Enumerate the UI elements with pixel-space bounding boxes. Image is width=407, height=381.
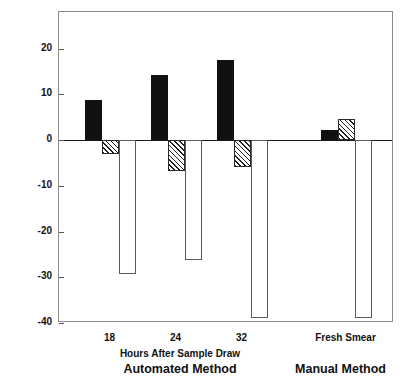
bar-18-open [119,140,136,274]
y-tick-mark [59,49,64,50]
bar-fresh-smear-solid [321,130,338,141]
y-tick-label: -10 [26,180,52,190]
y-tick-label: -30 [26,271,52,281]
y-tick-label: 20 [26,43,52,53]
x-group-label-manual: Manual Method [278,362,403,376]
y-tick-mark [59,232,64,233]
y-tick-label: -40 [26,317,52,327]
y-tick-mark [59,94,64,95]
y-tick-mark [59,140,64,141]
bar-32-hatched [234,140,251,167]
bar-24-hatched [168,140,185,171]
x-group-label-automated: Automated Method [60,362,300,376]
bar-32-solid [217,60,234,140]
chart-screenshot: % Difference from Automated Method on Fr… [0,0,407,381]
bar-fresh-smear-open [355,140,372,318]
x-tick-label: Fresh Smear [301,332,391,343]
y-tick-mark [59,186,64,187]
plot-area [58,11,393,322]
bar-fresh-smear-hatched [338,119,355,140]
y-tick-mark [59,277,64,278]
y-tick-label: 0 [26,134,52,144]
bar-24-solid [151,75,168,140]
x-axis-sub-label: Hours After Sample Draw [60,348,300,360]
bar-18-hatched [102,140,119,154]
x-tick-label: 18 [90,332,130,343]
bar-18-solid [85,100,102,140]
y-tick-label: 10 [26,88,52,98]
x-tick-label: 32 [222,332,262,343]
y-tick-mark [59,323,64,324]
bar-32-open [251,140,268,318]
y-tick-label: -20 [26,226,52,236]
x-tick-label: 24 [156,332,196,343]
bar-24-open [185,140,202,260]
